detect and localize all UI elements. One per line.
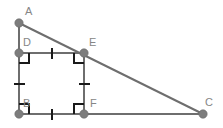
vertex-dot-E	[80, 49, 88, 57]
vertex-label-D: D	[23, 36, 31, 48]
segments-group	[19, 23, 203, 114]
vertex-dot-B	[15, 110, 23, 118]
segment-AC	[19, 23, 203, 114]
vertex-dot-D	[15, 49, 23, 57]
tick-marks-group	[14, 48, 90, 120]
geometry-diagram: A D E B F C	[0, 0, 223, 128]
vertex-dot-A	[15, 19, 23, 27]
diagram-canvas: A D E B F C	[0, 0, 223, 128]
vertex-label-B: B	[23, 97, 30, 109]
vertex-label-F: F	[90, 97, 97, 109]
vertex-dot-C	[199, 110, 207, 118]
vertex-label-A: A	[25, 5, 33, 17]
vertex-label-E: E	[89, 36, 96, 48]
vertex-dot-F	[80, 110, 88, 118]
vertex-label-C: C	[205, 96, 213, 108]
